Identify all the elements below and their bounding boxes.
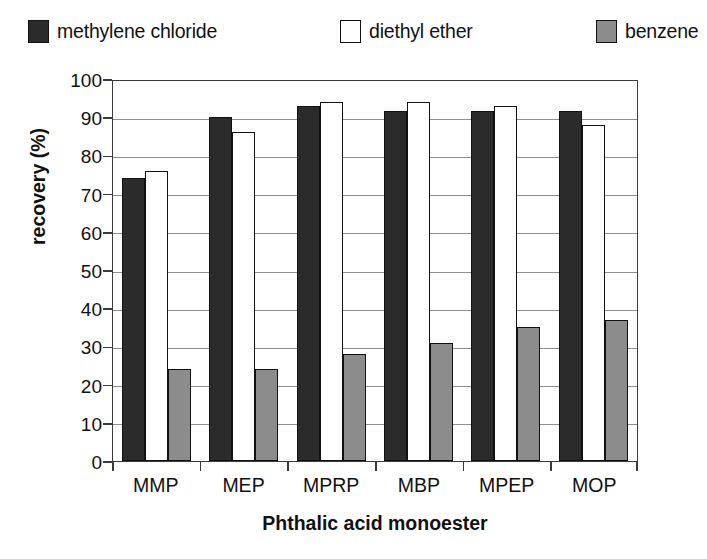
- x-tick-mark: [375, 462, 377, 471]
- y-tick-mark: [103, 270, 112, 272]
- y-tick-label: 70: [52, 186, 102, 205]
- chart-legend: methylene chloride diethyl ether benzene: [0, 18, 707, 62]
- y-tick-label: 10: [52, 415, 102, 434]
- y-tick-label: 30: [52, 338, 102, 357]
- legend-item-diethyl-ether: diethyl ether: [340, 20, 473, 43]
- bar-mep-diethyl-ether[interactable]: [232, 132, 255, 461]
- bar-mmp-benzene[interactable]: [168, 369, 191, 461]
- y-tick-mark: [103, 423, 112, 425]
- y-tick-label: 90: [52, 109, 102, 128]
- bar-mbp-diethyl-ether[interactable]: [407, 102, 430, 461]
- y-tick-mark: [103, 194, 112, 196]
- bar-mprp-benzene[interactable]: [343, 354, 366, 461]
- x-tick-mark: [287, 462, 289, 471]
- y-tick-label: 100: [52, 71, 102, 90]
- y-axis-title: recovery (%): [27, 77, 50, 297]
- bar-mop-diethyl-ether[interactable]: [582, 125, 605, 461]
- legend-swatch-diethyl-ether: [340, 20, 361, 43]
- y-tick-mark: [103, 385, 112, 387]
- x-tick-mark: [112, 462, 114, 471]
- y-tick-mark: [103, 461, 112, 463]
- y-tick-mark: [103, 156, 112, 158]
- x-axis-title: Phthalic acid monoester: [112, 512, 638, 535]
- bar-mep-methylene-chloride[interactable]: [209, 117, 232, 461]
- x-tick-label-mep: MEP: [200, 474, 288, 497]
- bar-mbp-benzene[interactable]: [430, 343, 453, 461]
- y-tick-label: 0: [52, 453, 102, 472]
- bar-mmp-methylene-chloride[interactable]: [122, 178, 145, 461]
- plot-area: [112, 80, 638, 462]
- legend-label-diethyl-ether: diethyl ether: [369, 20, 473, 43]
- bar-mbp-methylene-chloride[interactable]: [384, 111, 407, 461]
- y-tick-mark: [103, 117, 112, 119]
- x-axis-ticks: [112, 462, 638, 472]
- legend-swatch-benzene: [596, 20, 617, 43]
- y-tick-mark: [103, 308, 112, 310]
- bar-mpep-diethyl-ether[interactable]: [494, 106, 517, 461]
- x-tick-label-mop: MOP: [550, 474, 638, 497]
- bar-mprp-diethyl-ether[interactable]: [320, 102, 343, 461]
- bar-mop-methylene-chloride[interactable]: [559, 111, 582, 461]
- x-tick-mark: [200, 462, 202, 471]
- x-tick-label-mbp: MBP: [375, 474, 463, 497]
- legend-label-benzene: benzene: [625, 20, 698, 43]
- x-tick-mark: [636, 462, 638, 471]
- y-tick-label: 60: [52, 224, 102, 243]
- y-tick-mark: [103, 79, 112, 81]
- x-tick-mark: [550, 462, 552, 471]
- bar-mpep-methylene-chloride[interactable]: [471, 111, 494, 461]
- x-axis-labels: MMPMEPMPRPMBPMPEPMOP: [112, 474, 638, 497]
- y-tick-label: 40: [52, 300, 102, 319]
- y-tick-label: 20: [52, 377, 102, 396]
- x-tick-label-mpep: MPEP: [463, 474, 551, 497]
- y-tick-label: 80: [52, 147, 102, 166]
- legend-item-benzene: benzene: [596, 20, 698, 43]
- bar-mep-benzene[interactable]: [255, 369, 278, 461]
- x-tick-label-mprp: MPRP: [287, 474, 375, 497]
- bar-mmp-diethyl-ether[interactable]: [145, 171, 168, 461]
- y-tick-label: 50: [52, 262, 102, 281]
- x-tick-label-mmp: MMP: [112, 474, 200, 497]
- legend-swatch-methylene-chloride: [28, 20, 49, 43]
- y-tick-mark: [103, 232, 112, 234]
- bar-mop-benzene[interactable]: [605, 320, 628, 461]
- y-tick-mark: [103, 347, 112, 349]
- x-tick-mark: [463, 462, 465, 471]
- legend-label-methylene-chloride: methylene chloride: [57, 20, 217, 43]
- bar-mprp-methylene-chloride[interactable]: [297, 106, 320, 461]
- legend-item-methylene-chloride: methylene chloride: [28, 20, 217, 43]
- bar-mpep-benzene[interactable]: [517, 327, 540, 461]
